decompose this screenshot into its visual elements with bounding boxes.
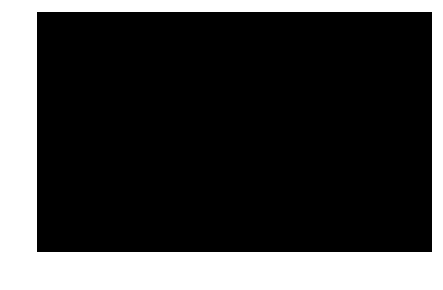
chart-canvas	[0, 0, 443, 290]
plot-area-background	[37, 12, 432, 252]
normal-probability-plot	[0, 0, 443, 290]
